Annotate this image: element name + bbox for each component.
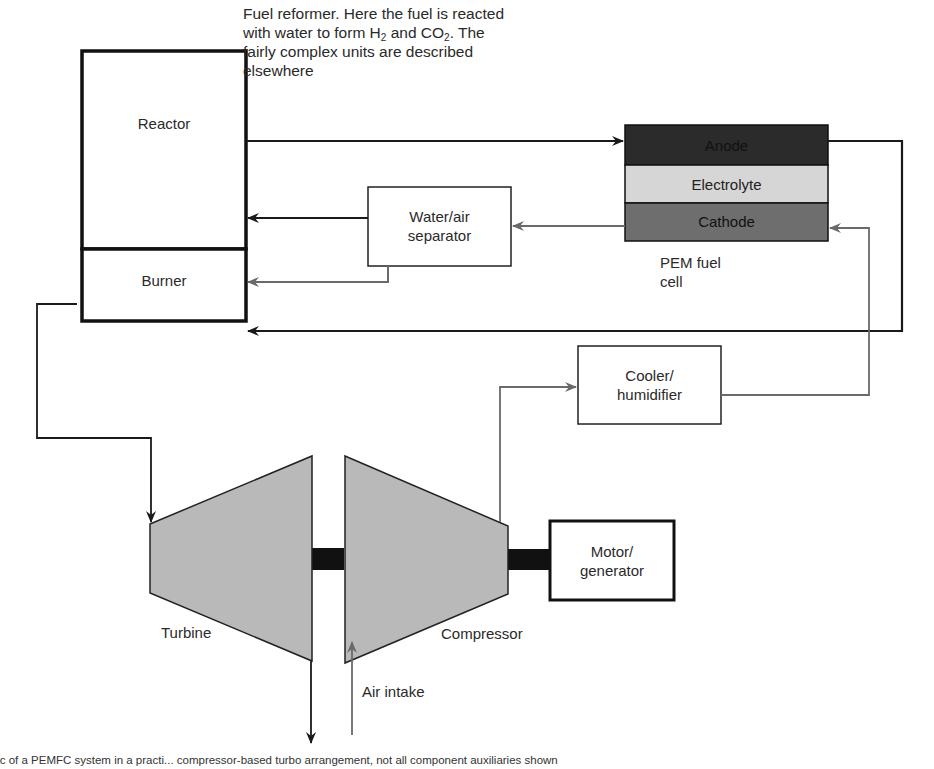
note-line-4: elsewhere — [243, 61, 583, 80]
turbine-label: Turbine — [161, 623, 211, 642]
fuel-reformer-note: Fuel reformer. Here the fuel is reacted … — [243, 4, 583, 80]
flow-separator-to-burner — [248, 266, 388, 282]
cooler-line-2: humidifier — [578, 385, 721, 404]
reactor-label: Reactor — [82, 114, 246, 133]
pem-fuel-cell-label: PEM fuel cell — [660, 253, 721, 291]
compressor-label: Compressor — [441, 624, 523, 643]
cooler-line-1: Cooler/ — [578, 366, 721, 385]
air-intake-label: Air intake — [362, 682, 425, 701]
pem-label-line-1: PEM fuel — [660, 253, 721, 272]
note-line-3: fairly complex units are described — [243, 42, 583, 61]
figure-caption: tic of a PEMFC system in a practi... com… — [0, 752, 934, 768]
note-line-1: Fuel reformer. Here the fuel is reacted — [243, 4, 583, 23]
water-air-separator-label: Water/air separator — [368, 207, 511, 245]
flow-burner-to-turbine — [37, 304, 151, 522]
motor-line-1: Motor/ — [550, 542, 674, 561]
flow-compressor-to-cooler — [500, 387, 576, 522]
reactor-box — [82, 51, 246, 249]
note-text: and CO — [386, 24, 444, 41]
compressor-motor-shaft — [508, 549, 551, 570]
electrolyte-label: Electrolyte — [625, 175, 828, 194]
note-text: . The — [450, 24, 485, 41]
separator-line-1: Water/air — [368, 207, 511, 226]
motor-generator-label: Motor/ generator — [550, 542, 674, 580]
note-line-2: with water to form H2 and CO2. The — [243, 23, 583, 42]
motor-line-2: generator — [550, 561, 674, 580]
separator-line-2: separator — [368, 226, 511, 245]
note-text: with water to form H — [243, 24, 381, 41]
pem-label-line-2: cell — [660, 272, 721, 291]
cathode-label: Cathode — [625, 212, 828, 231]
burner-label: Burner — [82, 271, 246, 290]
cooler-humidifier-label: Cooler/ humidifier — [578, 366, 721, 404]
anode-label: Anode — [625, 136, 828, 155]
flow-cooler-to-cathode — [721, 228, 869, 395]
turbine-compressor-shaft — [312, 548, 344, 570]
